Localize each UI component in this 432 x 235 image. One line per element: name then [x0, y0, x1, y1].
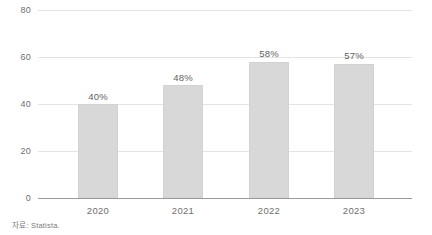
bar-value-label-2022: 58%	[259, 48, 279, 59]
source-note: 자료: Statista.	[12, 219, 60, 230]
bar-value-label-2021: 48%	[173, 72, 193, 83]
bar-2022[interactable]	[249, 62, 289, 198]
bar-group-2021: 48% 2021	[159, 10, 207, 198]
bar-2021[interactable]	[163, 85, 203, 198]
ytick-label-40: 40	[20, 99, 31, 109]
bar-2023[interactable]	[334, 64, 374, 198]
xtick-label-2023: 2023	[343, 205, 365, 216]
x-axis-line: 0	[38, 198, 412, 199]
xtick-label-2022: 2022	[258, 205, 280, 216]
bar-value-label-2023: 57%	[344, 50, 364, 61]
plot-area: 80 60 40 20 0 40% 2020 48% 2021	[38, 10, 412, 198]
bar-group-2022: 58% 2022	[245, 10, 293, 198]
bar-group-2023: 57% 2023	[330, 10, 378, 198]
bar-group-2020: 40% 2020	[74, 10, 122, 198]
bar-chart: 80 60 40 20 0 40% 2020 48% 2021	[0, 0, 432, 235]
xtick-label-2020: 2020	[87, 205, 109, 216]
ytick-label-0: 0	[26, 193, 31, 203]
bar-value-label-2020: 40%	[88, 91, 108, 102]
ytick-label-60: 60	[20, 52, 31, 62]
bar-2020[interactable]	[78, 104, 118, 198]
bars-layer: 40% 2020 48% 2021 58% 2022 57% 2023	[38, 10, 412, 198]
ytick-label-80: 80	[20, 5, 31, 15]
xtick-label-2021: 2021	[172, 205, 194, 216]
ytick-label-20: 20	[20, 146, 31, 156]
